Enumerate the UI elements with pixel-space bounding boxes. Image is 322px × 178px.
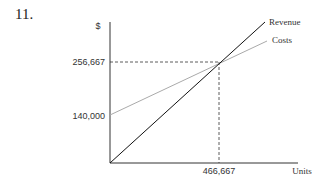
revenue-line [110, 22, 265, 163]
y-tick-breakeven: 256,667 [72, 57, 105, 67]
y-tick-fixed-costs: 140,000 [72, 111, 105, 121]
costs-label: Costs [272, 35, 293, 45]
x-axis-label: Units [292, 166, 312, 176]
y-axis-label: $ [95, 21, 100, 31]
costs-line [110, 41, 267, 115]
breakeven-chart: $ 256,667 140,000 466,667 Units Revenue … [0, 0, 322, 178]
x-tick-breakeven: 466,667 [203, 166, 236, 176]
revenue-label: Revenue [269, 17, 301, 27]
